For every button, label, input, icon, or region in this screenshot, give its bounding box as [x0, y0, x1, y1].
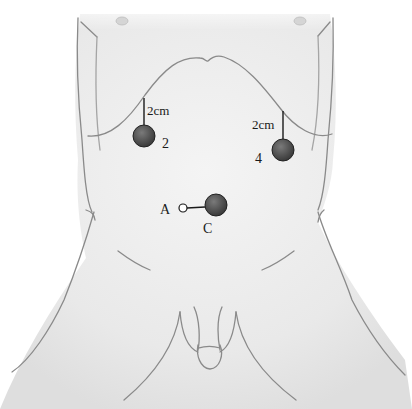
connector-a-c: [187, 207, 205, 208]
port-2-marker: [133, 125, 155, 147]
port-4-number-label: 4: [255, 152, 262, 166]
marker-a-label: A: [160, 203, 170, 217]
port-2-number-label: 2: [162, 137, 169, 151]
torso-illustration: [0, 0, 412, 409]
port-2-distance-label: 2cm: [147, 104, 169, 117]
top-fade: [60, 0, 350, 30]
marker-a: [179, 204, 187, 212]
port-4-distance-label: 2cm: [252, 118, 274, 131]
left-nipple: [116, 17, 128, 25]
port-c-label: C: [203, 222, 212, 236]
right-nipple: [294, 17, 306, 25]
port-placement-diagram: 2cm 2 2cm 4 A C: [0, 0, 412, 409]
port-c-marker: [205, 194, 227, 216]
port-4-marker: [272, 139, 294, 161]
torso-body: [0, 14, 412, 409]
